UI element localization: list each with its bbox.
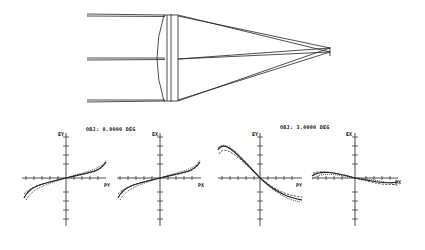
plot1-ylabel: EY [58,131,64,137]
plot3-ylabel: EY [252,131,258,137]
plot2-ylabel: EX [152,131,158,137]
plot1-xlabel: PY [104,182,110,188]
ray-fan-plots [0,0,425,250]
plot3-xlabel: PY [296,182,302,188]
plot4-ylabel: EX [346,131,352,137]
plot2-xlabel: PX [198,182,204,188]
plot4-xlabel: PX [395,179,401,185]
